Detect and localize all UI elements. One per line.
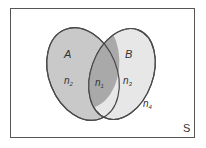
venn-diagram: A B n2 n1 n3 n4 S (0, 0, 206, 148)
set-b-label: B (125, 48, 132, 60)
universe-label: S (183, 122, 190, 134)
set-a-label: A (63, 48, 71, 60)
